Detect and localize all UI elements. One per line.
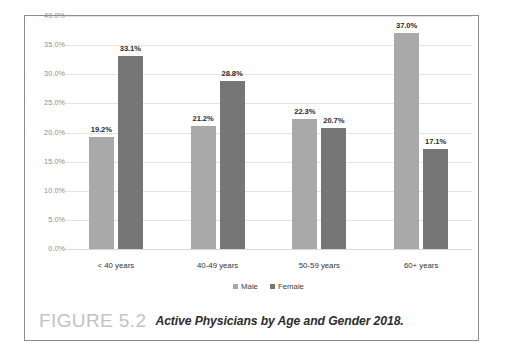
y-axis-tick-label: 35.0%	[31, 41, 65, 49]
legend-swatch-icon	[233, 284, 238, 289]
legend-item-female[interactable]: Female	[270, 282, 304, 291]
x-axis-tick-label: 40-49 years	[167, 261, 269, 270]
legend-label: Female	[278, 282, 304, 291]
bar-value-label: 37.0%	[386, 21, 427, 30]
bar-female[interactable]	[220, 81, 245, 249]
x-axis-tick-label: 60+ years	[370, 261, 472, 270]
figure-frame-border: 0.0%5.0%10.0%15.0%20.0%25.0%30.0%35.0%40…	[24, 15, 479, 341]
y-axis-tick-label: 10.0%	[31, 187, 65, 195]
y-axis-tick-label: 0.0%	[31, 245, 65, 253]
bar-male[interactable]	[191, 126, 216, 249]
bar-value-label: 19.2%	[81, 125, 122, 134]
bar-female[interactable]	[423, 149, 448, 249]
y-axis-tick-label: 5.0%	[31, 216, 65, 224]
caption-figure-number: FIGURE 5.2	[39, 310, 146, 332]
y-axis-tick-label: 20.0%	[31, 129, 65, 137]
bar-female[interactable]	[118, 56, 143, 249]
y-axis-tick-label: 30.0%	[31, 70, 65, 78]
bar-group: 22.3%20.7%	[269, 16, 371, 249]
plot-area: 19.2%33.1%21.2%28.8%22.3%20.7%37.0%17.1%	[65, 16, 472, 249]
caption-title: Active Physicians by Age and Gender 2018…	[155, 314, 403, 328]
x-axis-tick-label: 50-59 years	[269, 261, 371, 270]
x-axis: < 40 years40-49 years50-59 years60+ year…	[65, 249, 472, 275]
bar-group: 19.2%33.1%	[65, 16, 167, 249]
legend-label: Male	[241, 282, 258, 291]
bar-group: 37.0%17.1%	[370, 16, 472, 249]
bar-group: 21.2%28.8%	[167, 16, 269, 249]
legend-item-male[interactable]: Male	[233, 282, 258, 291]
bar-value-label: 33.1%	[110, 44, 151, 53]
bar-value-label: 22.3%	[284, 107, 325, 116]
figure-caption: FIGURE 5.2 Active Physicians by Age and …	[39, 303, 468, 339]
y-axis-tick-label: 25.0%	[31, 99, 65, 107]
y-axis-tick-label: 40.0%	[31, 12, 65, 20]
bars-layer: 19.2%33.1%21.2%28.8%22.3%20.7%37.0%17.1%	[65, 16, 472, 249]
x-axis-tick-label: < 40 years	[65, 261, 167, 270]
bar-male[interactable]	[89, 137, 114, 249]
bar-value-label: 21.2%	[183, 114, 224, 123]
bar-value-label: 28.8%	[212, 69, 253, 78]
bar-female[interactable]	[321, 128, 346, 249]
y-axis-tick-label: 15.0%	[31, 158, 65, 166]
bar-male[interactable]	[292, 119, 317, 249]
legend-swatch-icon	[270, 284, 275, 289]
bar-value-label: 20.7%	[313, 116, 354, 125]
bar-value-label: 17.1%	[415, 137, 456, 146]
figure-container: 0.0%5.0%10.0%15.0%20.0%25.0%30.0%35.0%40…	[0, 0, 513, 356]
bar-chart: 0.0%5.0%10.0%15.0%20.0%25.0%30.0%35.0%40…	[25, 16, 480, 301]
y-axis: 0.0%5.0%10.0%15.0%20.0%25.0%30.0%35.0%40…	[31, 16, 65, 301]
chart-legend: MaleFemale	[65, 278, 472, 294]
